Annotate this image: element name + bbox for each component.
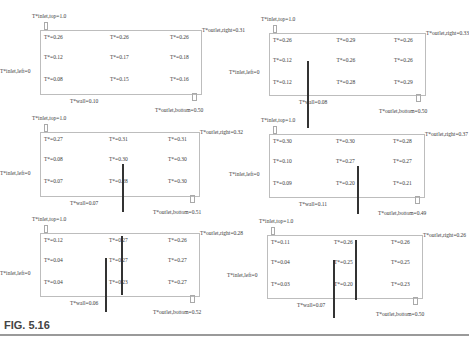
temperature-cell: T*=0.31 — [168, 136, 187, 143]
partition-wall — [105, 258, 107, 312]
wall-label: T*wall=0.11 — [299, 201, 327, 208]
temperature-cell: T*=0.04 — [44, 279, 63, 286]
inlet-top-marker — [44, 22, 48, 30]
panel-2: T*inlet,top=1.0T*outlet,right=0.33T*inle… — [234, 0, 468, 110]
temperature-cell: T*=0.12 — [273, 57, 292, 64]
temperature-cell: T*=0.27 — [44, 136, 63, 143]
inlet-top-marker — [44, 124, 48, 132]
outlet-right-label: T*outlet,right=0.26 — [423, 232, 466, 239]
outlet-bottom-marker — [413, 297, 418, 305]
temperature-cell: T*=0.31 — [109, 136, 128, 143]
temperature-cell: T*=0.26 — [44, 34, 63, 41]
inlet-top-label: T*inlet,top=1.0 — [32, 216, 66, 223]
outlet-bottom-label: T*outlet,bottom=0.52 — [153, 309, 201, 316]
temperature-cell: T*=0.15 — [110, 76, 129, 83]
temperature-cell: T*=0.25 — [391, 259, 410, 266]
panel-4: T*inlet,top=1.0T*outlet,right=0.37T*inle… — [234, 107, 468, 217]
temperature-cell: T*=0.20 — [334, 281, 353, 288]
wall-label: T*wall=0.08 — [299, 99, 327, 106]
temperature-cell: T*=0.10 — [273, 158, 292, 165]
temperature-cell: T*=0.17 — [110, 54, 129, 61]
temperature-cell: T*=0.23 — [391, 281, 410, 288]
inlet-left-label: T*inlet,left=0 — [227, 272, 257, 279]
wall-label: T*wall=0.07 — [297, 302, 325, 309]
temperature-cell: T*=0.07 — [44, 178, 63, 185]
temperature-cell: T*=0.26 — [110, 34, 129, 41]
partition-wall — [357, 166, 359, 214]
temperature-cell: T*=0.30 — [168, 156, 187, 163]
outlet-right-label: T*outlet,right=0.37 — [425, 131, 468, 138]
temperature-cell: T*=0.28 — [393, 138, 412, 145]
figure-caption: FIG. 5.16 — [4, 319, 50, 331]
temperature-cell: T*=0.26 — [334, 239, 353, 246]
outlet-bottom-marker — [190, 195, 195, 203]
inlet-top-marker — [44, 225, 48, 233]
temperature-cell: T*=0.04 — [271, 259, 290, 266]
outlet-right-label: T*outlet,right=0.33 — [426, 30, 469, 37]
partition-wall — [121, 236, 123, 295]
temperature-cell: T*=0.21 — [393, 180, 412, 187]
temperature-cell: T*=0.16 — [170, 76, 189, 83]
panel-3: T*inlet,top=1.0T*outlet,right=0.32T*inle… — [0, 107, 234, 217]
temperature-cell: T*=0.29 — [394, 79, 413, 86]
inlet-top-label: T*inlet,top=1.0 — [259, 218, 293, 225]
temperature-cell: T*=0.27 — [168, 279, 187, 286]
temperature-cell: T*=0.26 — [273, 37, 292, 44]
inlet-top-label: T*inlet,top=1.0 — [261, 117, 295, 124]
temperature-cell: T*=0.12 — [44, 54, 63, 61]
caption-rule — [0, 334, 469, 336]
temperature-cell: T*=0.08 — [44, 156, 63, 163]
temperature-cell: T*=0.26 — [394, 57, 413, 64]
partition-wall — [333, 260, 335, 318]
temperature-cell: T*=0.11 — [271, 239, 290, 246]
temperature-cell: T*=0.30 — [273, 138, 292, 145]
partition-wall — [122, 164, 124, 212]
temperature-cell: T*=0.27 — [336, 158, 355, 165]
temperature-cell: T*=0.26 — [168, 237, 187, 244]
temperature-cell: T*=0.03 — [271, 281, 290, 288]
temperature-cell: T*=0.26 — [394, 37, 413, 44]
outlet-bottom-marker — [190, 295, 195, 303]
inlet-left-label: T*inlet,left=0 — [0, 170, 30, 177]
inlet-left-label: T*inlet,left=0 — [229, 171, 259, 178]
temperature-cell: T*=0.27 — [109, 237, 128, 244]
panel-6: T*inlet,top=1.0T*outlet,right=0.26T*inle… — [234, 213, 468, 323]
temperature-cell: T*=0.27 — [168, 257, 187, 264]
temperature-cell: T*=0.08 — [44, 76, 63, 83]
temperature-cell: T*=0.12 — [44, 237, 63, 244]
outlet-bottom-marker — [416, 94, 421, 102]
inlet-top-marker — [273, 126, 277, 134]
inlet-left-label: T*inlet,left=0 — [0, 68, 30, 75]
temperature-cell: T*=0.09 — [273, 180, 292, 187]
inlet-top-label: T*inlet,top=1.0 — [32, 13, 66, 20]
temperature-cell: T*=0.27 — [393, 158, 412, 165]
temperature-cell: T*=0.28 — [109, 178, 128, 185]
inlet-top-label: T*inlet,top=1.0 — [32, 115, 66, 122]
inlet-top-label: T*inlet,top=1.0 — [261, 16, 295, 23]
temperature-cell: T*=0.18 — [170, 54, 189, 61]
temperature-cell: T*=0.25 — [334, 259, 353, 266]
temperature-cell: T*=0.04 — [44, 257, 63, 264]
temperature-cell: T*=0.12 — [273, 79, 292, 86]
temperature-cell: T*=0.30 — [168, 178, 187, 185]
temperature-cell: T*=0.27 — [109, 257, 128, 264]
inlet-left-label: T*inlet,left=0 — [229, 69, 259, 76]
temperature-cell: T*=0.26 — [170, 34, 189, 41]
panel-5: T*inlet,top=1.0T*outlet,right=0.28T*inle… — [0, 213, 234, 323]
wall-label: T*wall=0.06 — [70, 300, 98, 307]
temperature-cell: T*=0.28 — [337, 79, 356, 86]
temperature-cell: T*=0.30 — [109, 156, 128, 163]
inlet-left-label: T*inlet,left=0 — [0, 270, 30, 277]
temperature-cell: T*=0.23 — [109, 279, 128, 286]
wall-label: T*wall=0.07 — [70, 200, 98, 207]
temperature-cell: T*=0.29 — [337, 37, 356, 44]
partition-wall — [355, 240, 357, 300]
outlet-bottom-label: T*outlet,bottom=0.50 — [376, 311, 424, 318]
temperature-cell: T*=0.26 — [337, 57, 356, 64]
inlet-top-marker — [273, 25, 277, 33]
outlet-bottom-marker — [192, 93, 197, 101]
outlet-bottom-marker — [415, 196, 420, 204]
panel-1: T*inlet,top=1.0T*outlet,right=0.31T*inle… — [0, 0, 234, 110]
temperature-cell: T*=0.30 — [336, 138, 355, 145]
temperature-cell: T*=0.26 — [391, 239, 410, 246]
